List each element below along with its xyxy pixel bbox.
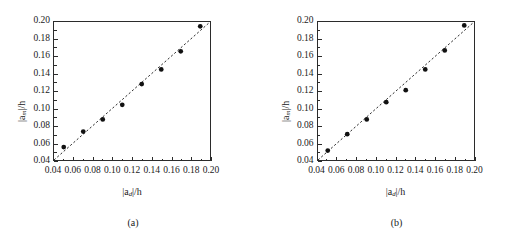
panel-b-xlabel-tail: |/h (396, 186, 406, 197)
panel-b-ytick-minor (318, 65, 321, 66)
panel-a-ytick-minor (54, 100, 57, 101)
panel-b-caption: (b) (391, 217, 403, 228)
panel-b-xtick-minor (366, 159, 367, 162)
panel-a-ylabel-tail: |/h (16, 101, 27, 111)
panel-b-ytick-label: 0.08 (287, 121, 314, 131)
panel-b-ytick (318, 109, 322, 110)
panel-a-xtick-label: 0.18 (183, 166, 200, 176)
panel-b-reference-line (318, 22, 474, 160)
panel-a-xtick (211, 157, 212, 161)
panel-a-ytick (54, 21, 58, 22)
panel-a-xtick (112, 157, 113, 161)
panel-a-yaxis-title: |am|/h (16, 101, 27, 122)
panel-b-data-point (403, 88, 408, 93)
panel-a-xtick-minor (181, 159, 182, 162)
panel-a-data-point (120, 102, 125, 107)
panel-a-ytick-label: 0.18 (23, 34, 50, 44)
panel-a-ytick-minor (54, 47, 57, 48)
panel-a-ylabel-subscript: m (20, 111, 27, 116)
panel-b-ytick-minor (318, 30, 321, 31)
panel-a-data-point (159, 67, 164, 72)
panel-b-xtick-label: 0.14 (407, 166, 424, 176)
panel-b-ytick-label: 0.18 (287, 34, 314, 44)
panel-a-ytick (54, 56, 58, 57)
panel-a-ytick-label: 0.12 (23, 86, 50, 96)
panel-b-ytick (318, 91, 322, 92)
panel-a-ytick-minor (54, 65, 57, 66)
panel-b-xtick-minor (405, 159, 406, 162)
panel-b-xtick-minor (326, 159, 327, 162)
panel-a-svg (54, 22, 210, 160)
panel-b-xtick-minor (465, 159, 466, 162)
panel-b-ylabel-tail: |/h (280, 101, 291, 111)
panel-b-xtick (455, 157, 456, 161)
panel-a-data-area (54, 22, 210, 160)
panel-b-ytick-label: 0.12 (287, 86, 314, 96)
panel-b-ylabel-open: |a (280, 116, 291, 122)
panel-b-xtick-minor (386, 159, 387, 162)
panel-a-xtick-label: 0.14 (143, 166, 160, 176)
panel-b-ytick-minor (318, 100, 321, 101)
panel-b-data-point (422, 67, 427, 72)
panel-a-xtick (132, 157, 133, 161)
panel-a-xtick-minor (122, 159, 123, 162)
panel-b-ytick-minor (318, 117, 321, 118)
panel-a-xtick-label: 0.20 (203, 166, 220, 176)
panel-a-xtick (73, 157, 74, 161)
panel-a-xtick-minor (83, 159, 84, 162)
panel-b-ytick (318, 161, 322, 162)
panel-b-ytick-label: 0.16 (287, 51, 314, 61)
panel-b-xtick (475, 157, 476, 161)
panel-a-ytick-label: 0.14 (23, 69, 50, 79)
panel-a-ytick (54, 144, 58, 145)
panel-b-data-point (461, 23, 466, 28)
panel-b-xtick-label: 0.20 (466, 166, 483, 176)
panel-b-ylabel-subscript: m (284, 111, 291, 116)
panel-a: 0.040.060.080.100.120.140.160.180.200.04… (0, 0, 257, 232)
panel-b-ytick (318, 21, 322, 22)
panel-a-xtick-label: 0.08 (84, 166, 101, 176)
panel-a-ytick-label: 0.20 (23, 16, 50, 26)
panel-a-ytick-minor (54, 82, 57, 83)
panel-a-xtick-minor (63, 159, 64, 162)
panel-a-xtick-minor (201, 159, 202, 162)
panel-b-xtick (396, 157, 397, 161)
panel-a-ylabel-open: |a (16, 116, 27, 122)
panel-b-xtick (356, 157, 357, 161)
panel-b-plot: 0.040.060.080.100.120.140.160.180.200.04… (257, 0, 513, 232)
panel-a-ytick (54, 91, 58, 92)
panel-b-data-area (318, 22, 474, 160)
panel-b-xtick-minor (445, 159, 446, 162)
panel-b-xtick-label: 0.16 (427, 166, 444, 176)
panel-b-ytick-label: 0.14 (287, 69, 314, 79)
panel-a-plot: 0.040.060.080.100.120.140.160.180.200.04… (0, 0, 257, 232)
panel-b-yaxis-title: |am|/h (280, 101, 291, 122)
panel-b-xtick (336, 157, 337, 161)
panel-b-xtick-minor (425, 159, 426, 162)
panel-a-xtick-minor (142, 159, 143, 162)
panel-b-ytick (318, 126, 322, 127)
panel-b-data-point (442, 48, 447, 53)
panel-a-xtick (172, 157, 173, 161)
panel-a-xtick (93, 157, 94, 161)
panel-a-ytick-minor (54, 117, 57, 118)
panel-b-ytick (318, 144, 322, 145)
panel-a-ytick (54, 39, 58, 40)
panel-b-xtick-label: 0.12 (387, 166, 404, 176)
panel-b-ytick (318, 56, 322, 57)
panel-b-xtick-label: 0.10 (367, 166, 384, 176)
panel-b-ytick-label: 0.04 (287, 156, 314, 166)
panel-b-xtick (415, 157, 416, 161)
panel-b-ytick (318, 39, 322, 40)
figure-two-panel-scatter: 0.040.060.080.100.120.140.160.180.200.04… (0, 0, 513, 232)
panel-b-data-point (325, 148, 330, 153)
panel-a-ytick-label: 0.08 (23, 121, 50, 131)
panel-b-data-point (364, 117, 369, 122)
panel-a-xtick-label: 0.06 (64, 166, 81, 176)
panel-b-xtick-label: 0.04 (308, 166, 325, 176)
panel-b-xtick (376, 157, 377, 161)
panel-a-reference-line (54, 22, 210, 160)
panel-b-xtick-minor (346, 159, 347, 162)
panel-b-xtick-label: 0.08 (348, 166, 365, 176)
panel-a-xtick-label: 0.10 (104, 166, 121, 176)
